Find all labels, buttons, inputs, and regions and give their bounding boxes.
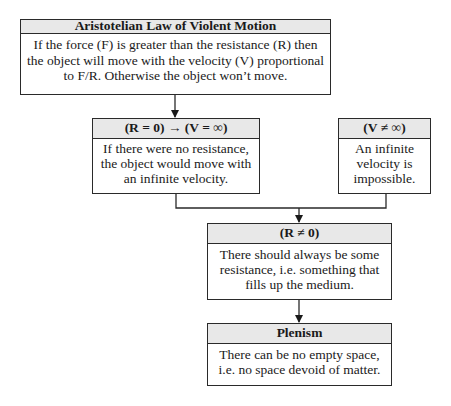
body-line: an infinite velocity. — [97, 171, 255, 186]
body-line: velocity is — [343, 156, 426, 171]
body-line: There can be no empty space, — [212, 347, 387, 362]
body-line: to F/R. Otherwise the object won’t move. — [25, 68, 326, 84]
node-title: (R = 0) → (V = ∞) — [93, 119, 259, 139]
node-r-not-zero: (R ≠ 0) There should always be some resi… — [207, 223, 392, 300]
body-line: If the force (F) is greater than the res… — [25, 37, 326, 53]
merge-connector — [176, 193, 386, 208]
body-line: fills up the medium. — [212, 277, 387, 292]
node-title: Plenism — [208, 324, 391, 344]
body-line: resistance, i.e. something that — [212, 262, 387, 277]
node-body: An infinite velocity is impossible. — [339, 139, 430, 186]
node-body: There can be no empty space, i.e. no spa… — [208, 344, 391, 377]
body-line: If there were no resistance, — [97, 141, 255, 156]
node-title: (V ≠ ∞) — [339, 119, 430, 139]
node-r-zero: (R = 0) → (V = ∞) If there were no resis… — [92, 118, 260, 194]
body-line: the object would move with — [97, 156, 255, 171]
node-plenism: Plenism There can be no empty space, i.e… — [207, 323, 392, 386]
node-law-of-violent-motion: Aristotelian Law of Violent Motion If th… — [20, 19, 331, 95]
node-v-not-infinite: (V ≠ ∞) An infinite velocity is impossib… — [338, 118, 431, 194]
node-body: If the force (F) is greater than the res… — [21, 34, 330, 84]
body-line: There should always be some — [212, 247, 387, 262]
body-line: An infinite — [343, 141, 426, 156]
node-body: If there were no resistance, the object … — [93, 139, 259, 186]
node-title: Aristotelian Law of Violent Motion — [21, 20, 330, 34]
node-title: (R ≠ 0) — [208, 224, 391, 244]
body-line: impossible. — [343, 171, 426, 186]
node-body: There should always be some resistance, … — [208, 244, 391, 292]
body-line: i.e. no space devoid of matter. — [212, 362, 387, 377]
body-line: the object will move with the velocity (… — [25, 53, 326, 69]
